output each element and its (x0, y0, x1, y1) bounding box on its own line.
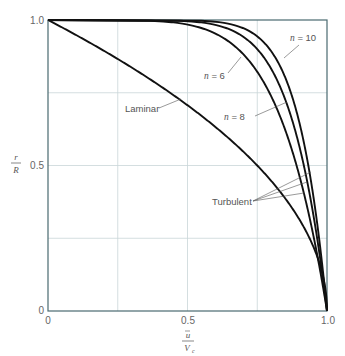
label-n8: n = 8 (224, 111, 245, 122)
svg-text:r: r (14, 152, 18, 162)
arrow-n6 (228, 57, 241, 73)
label-n6: n = 6 (204, 70, 225, 81)
label-n10: n = 10 (290, 32, 316, 43)
svg-text:V: V (184, 343, 191, 353)
x-tick-0: 0 (45, 315, 51, 326)
svg-text:c: c (192, 348, 195, 354)
x-axis-label: u V c (182, 330, 195, 354)
y-tick-05: 0.5 (30, 160, 44, 171)
arrow-n10 (284, 45, 299, 58)
svg-text:R: R (12, 165, 19, 175)
gridlines (48, 20, 327, 311)
x-tick-05: 0.5 (181, 315, 195, 326)
x-tick-1: 1.0 (321, 315, 335, 326)
label-laminar: Laminar (125, 103, 159, 114)
arrow-n8 (255, 102, 287, 116)
arrow-laminar (159, 99, 181, 108)
svg-text:u: u (186, 330, 191, 340)
velocity-profile-chart: 1.0 0.5 0 0 0.5 1.0 r R u V c n = 10 n =… (0, 0, 345, 356)
y-tick-0: 0 (38, 305, 44, 316)
y-tick-1: 1.0 (30, 15, 44, 26)
label-turbulent: Turbulent (212, 196, 252, 207)
y-axis-label: r R (11, 152, 21, 175)
